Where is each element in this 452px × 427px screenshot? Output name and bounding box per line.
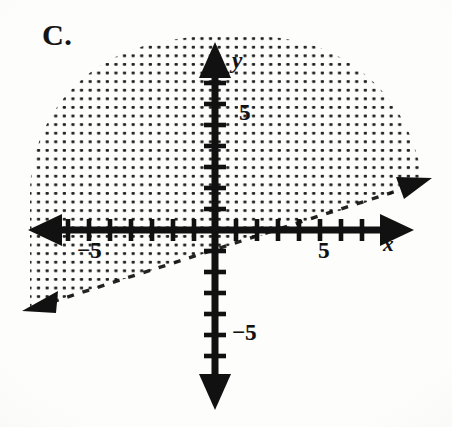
y-axis-label: y	[232, 48, 242, 74]
y-axis-tick-label-positive-5: 5	[239, 100, 251, 126]
y-axis-tick-label-negative-5: −5	[232, 320, 257, 346]
problem-label: C.	[42, 18, 72, 52]
x-axis-label: x	[383, 232, 394, 257]
y-axis-arrow-down	[199, 374, 231, 410]
dashed-line-arrowhead-right	[396, 177, 432, 199]
x-axis-tick-label-negative-5: −5	[77, 238, 102, 264]
x-axis-tick-label-positive-5: 5	[318, 238, 330, 264]
figure-canvas: C. y x 5 −5 5 −5	[0, 0, 452, 427]
coordinate-plane-graphic	[0, 0, 452, 427]
